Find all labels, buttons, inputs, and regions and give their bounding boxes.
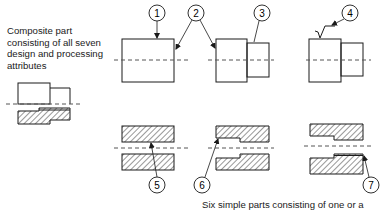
simple-part-1-plain-cylinder bbox=[114, 39, 190, 82]
callout-1: 1 bbox=[149, 5, 165, 21]
simple-part-7-bore-finish bbox=[304, 124, 372, 174]
composite-part bbox=[6, 83, 80, 124]
svg-text:6: 6 bbox=[199, 180, 205, 191]
svg-text:3: 3 bbox=[259, 8, 265, 19]
callout-6: 6 bbox=[194, 177, 210, 193]
simple-part-6-stepped-bore bbox=[208, 126, 274, 170]
callout-2: 2 bbox=[188, 5, 204, 21]
callout-3: 3 bbox=[254, 5, 270, 21]
svg-text:7: 7 bbox=[368, 180, 374, 191]
svg-text:5: 5 bbox=[154, 180, 160, 191]
simple-part-2-stepped-shaft bbox=[208, 39, 274, 82]
svg-text:1: 1 bbox=[154, 8, 160, 19]
callout-4: 4 bbox=[342, 5, 358, 21]
callout-7: 7 bbox=[363, 177, 379, 193]
simple-part-3-surface-finish bbox=[306, 26, 371, 82]
svg-text:2: 2 bbox=[193, 8, 199, 19]
callout-5: 5 bbox=[149, 177, 165, 193]
part-attributes-diagram: 1 2 3 4 5 6 7 bbox=[0, 0, 383, 212]
svg-text:4: 4 bbox=[347, 8, 353, 19]
